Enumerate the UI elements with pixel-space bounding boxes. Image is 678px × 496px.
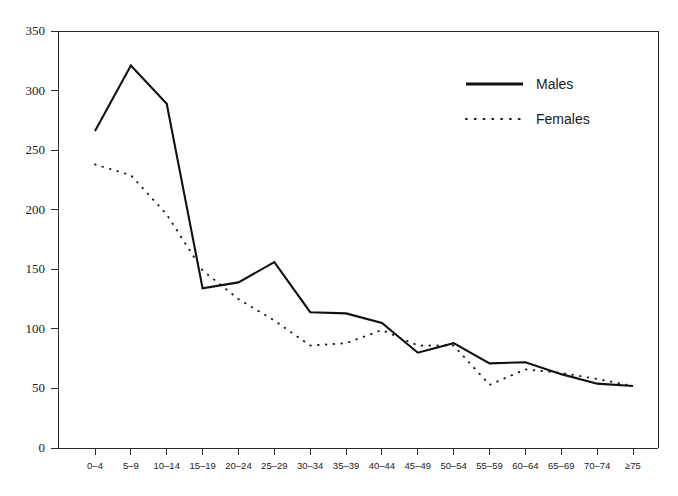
x-tick-label: 50–54 bbox=[440, 460, 466, 471]
x-tick-label: ≥75 bbox=[625, 460, 641, 471]
x-tick-label: 70–74 bbox=[584, 460, 610, 471]
y-tick-label: 300 bbox=[26, 83, 46, 98]
line-chart: 050100150200250300350 0–45–910–1415–1920… bbox=[0, 0, 678, 496]
x-tick-label: 25–29 bbox=[261, 460, 287, 471]
x-tick-label: 20–24 bbox=[225, 460, 251, 471]
y-tick-label: 350 bbox=[26, 23, 46, 38]
x-tick-label: 45–49 bbox=[405, 460, 431, 471]
y-tick-label: 0 bbox=[39, 440, 46, 455]
x-tick-label: 0–4 bbox=[87, 460, 103, 471]
x-tick-label: 30–34 bbox=[297, 460, 323, 471]
y-tick-label: 50 bbox=[32, 380, 45, 395]
x-tick-label: 55–59 bbox=[476, 460, 502, 471]
y-tick-label: 150 bbox=[26, 261, 46, 276]
x-tick-label: 65–69 bbox=[548, 460, 574, 471]
legend-label-males: Males bbox=[536, 76, 573, 92]
chart-container: 050100150200250300350 0–45–910–1415–1920… bbox=[0, 0, 678, 496]
y-tick-label: 250 bbox=[26, 142, 46, 157]
y-tick-label: 100 bbox=[26, 321, 46, 336]
x-tick-label: 40–44 bbox=[369, 460, 395, 471]
x-tick-label: 15–19 bbox=[189, 460, 215, 471]
x-tick-label: 5–9 bbox=[123, 460, 139, 471]
x-tick-label: 35–39 bbox=[333, 460, 359, 471]
y-axis: 050100150200250300350 bbox=[26, 23, 59, 455]
series-line-females bbox=[95, 164, 633, 386]
legend-label-females: Females bbox=[536, 111, 590, 127]
x-axis: 0–45–910–1415–1920–2425–2930–3435–3940–4… bbox=[58, 448, 658, 471]
x-tick-group: 0–45–910–1415–1920–2425–2930–3435–3940–4… bbox=[87, 448, 641, 471]
x-tick-label: 10–14 bbox=[154, 460, 180, 471]
y-tick-label: 200 bbox=[26, 202, 46, 217]
legend: Males Females bbox=[466, 76, 590, 127]
x-tick-label: 60–64 bbox=[512, 460, 538, 471]
y-tick-group: 050100150200250300350 bbox=[26, 23, 59, 455]
